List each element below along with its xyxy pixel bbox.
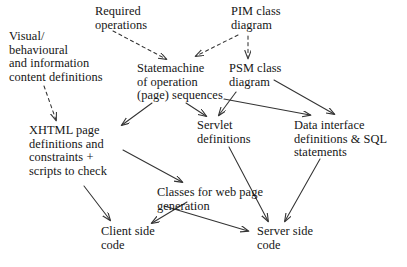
node-text-line: Client side bbox=[101, 225, 155, 239]
node-text-line: code bbox=[101, 239, 155, 253]
statemachine-of-operation-page-sequences: Statemachineof operation(page) sequences bbox=[137, 62, 223, 103]
node-text-line: Data interface bbox=[294, 119, 387, 133]
node-text-line: Required bbox=[95, 5, 147, 19]
node-text-line: and information bbox=[9, 57, 103, 71]
servlet-definitions: Servletdefinitions bbox=[197, 119, 251, 146]
arrow-visual-definitions-to-xhtml-page-definitions bbox=[44, 86, 56, 120]
node-text-line: XHTML page bbox=[29, 124, 107, 138]
arrow-required-operations-to-statemachine bbox=[113, 31, 166, 59]
arrow-statemachine-to-servlet-definitions bbox=[186, 103, 206, 116]
node-text-line: definitions & SQL bbox=[294, 133, 387, 147]
pim-class-diagram: PIM classdiagram bbox=[231, 5, 281, 32]
node-text-line: definitions and bbox=[29, 138, 107, 152]
arrow-statemachine-to-xhtml-page-definitions bbox=[122, 103, 152, 125]
node-text-line: behavioural bbox=[9, 44, 103, 58]
node-text-line: of operation bbox=[137, 76, 223, 90]
node-text-line: diagram bbox=[231, 19, 281, 33]
client-side-code: Client sidecode bbox=[101, 225, 155, 252]
node-text-line: diagram bbox=[229, 76, 281, 90]
arrow-xhtml-page-definitions-to-classes-for-web-page-generation bbox=[123, 150, 182, 182]
required-operations: Requiredoperations bbox=[95, 5, 147, 32]
server-side-code: Server sidecode bbox=[257, 225, 313, 252]
node-text-line: operations bbox=[95, 19, 147, 33]
node-text-line: content definitions bbox=[9, 71, 103, 85]
arrow-data-interface-definitions-to-server-side-code bbox=[285, 159, 320, 221]
classes-for-web-page-generation: Classes for web pagegeneration bbox=[157, 186, 263, 213]
node-text-line: statements bbox=[294, 146, 387, 160]
node-text-line: constraints + bbox=[29, 151, 107, 165]
node-text-line: PSM class bbox=[229, 62, 281, 76]
arrow-statemachine-to-data-interface-definitions bbox=[224, 99, 310, 115]
visual-behavioural-content-definitions: Visual/behaviouraland informationcontent… bbox=[9, 30, 103, 84]
data-interface-definitions-and-sql-statements: Data interfacedefinitions & SQLstatement… bbox=[294, 119, 387, 160]
artefact-dependency-diagram: Visual/behaviouraland informationcontent… bbox=[0, 0, 407, 267]
xhtml-page-definitions-and-constraints: XHTML pagedefinitions andconstraints +sc… bbox=[29, 124, 107, 178]
node-text-line: Visual/ bbox=[9, 30, 103, 44]
node-text-line: Server side bbox=[257, 225, 313, 239]
node-text-line: code bbox=[257, 239, 313, 253]
arrow-pim-class-diagram-to-statemachine bbox=[196, 35, 238, 56]
psm-class-diagram: PSM classdiagram bbox=[229, 62, 281, 89]
node-text-line: generation bbox=[157, 200, 263, 214]
node-text-line: Servlet bbox=[197, 119, 251, 133]
arrow-psm-class-diagram-to-data-interface-definitions bbox=[274, 80, 334, 114]
arrow-xhtml-page-definitions-to-client-side-code bbox=[84, 186, 110, 220]
node-text-line: definitions bbox=[197, 133, 251, 147]
node-text-line: Classes for web page bbox=[157, 186, 263, 200]
node-text-line: scripts to check bbox=[29, 165, 107, 179]
node-text-line: PIM class bbox=[231, 5, 281, 19]
node-text-line: Statemachine bbox=[137, 62, 223, 76]
node-text-line: (page) sequences bbox=[137, 89, 223, 103]
